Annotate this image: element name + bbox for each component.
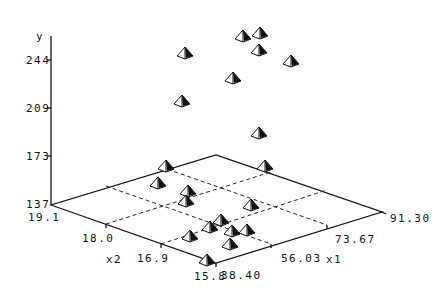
x2-tick-label: 16.9 xyxy=(137,252,170,265)
3d-scatter-plot: y 244 209 173 137 19.1 18.0 16.9 15.8 x2… xyxy=(0,0,441,300)
data-point-pyramid-icon xyxy=(182,230,198,242)
x1-axis-title: x1 xyxy=(326,253,342,266)
data-point-pyramid-icon xyxy=(283,55,299,67)
data-point-pyramid-icon xyxy=(235,30,251,42)
data-point-pyramid-icon xyxy=(251,127,267,139)
x1-tick-label: 91.30 xyxy=(390,212,431,225)
x2-axis-title: x2 xyxy=(106,253,122,266)
data-point-pyramid-icon xyxy=(199,254,215,266)
y-axis-title: y xyxy=(36,30,44,43)
x2-tick-label: 18.0 xyxy=(82,232,115,245)
data-point-pyramid-icon xyxy=(252,27,268,39)
data-point-pyramid-icon xyxy=(239,224,255,236)
y-tick-label: 137 xyxy=(26,198,50,211)
data-point-pyramid-icon xyxy=(178,195,194,207)
x1-tick-label: 56.03 xyxy=(281,252,322,265)
data-point-pyramid-icon xyxy=(257,160,273,172)
x2-tick-label: 19.1 xyxy=(28,211,61,224)
y-tick-label: 209 xyxy=(26,102,50,115)
y-tick-label: 173 xyxy=(26,150,50,163)
data-point-pyramid-icon xyxy=(174,95,190,107)
data-point-pyramid-icon xyxy=(224,225,240,237)
x1-tick-label: 73.67 xyxy=(335,233,376,246)
data-point-pyramid-icon xyxy=(158,160,174,172)
data-point-pyramid-icon xyxy=(177,47,193,59)
data-point-pyramid-icon xyxy=(213,214,229,226)
data-point-pyramid-icon xyxy=(225,72,241,84)
y-tick-label: 244 xyxy=(26,54,50,67)
x1-tick xyxy=(382,212,386,214)
data-point-pyramid-icon xyxy=(222,238,238,250)
data-point-pyramid-icon xyxy=(180,185,196,197)
data-point-pyramid-icon xyxy=(150,177,166,189)
data-point-pyramid-icon xyxy=(251,44,267,56)
data-markers xyxy=(150,27,299,266)
x1-tick-label: 38.40 xyxy=(221,269,262,282)
floor-outline xyxy=(51,155,382,263)
